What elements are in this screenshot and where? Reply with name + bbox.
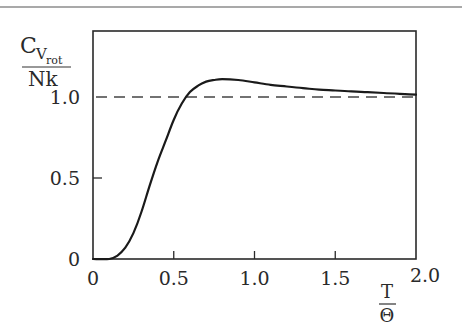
plot-border xyxy=(93,31,416,259)
x-tick-label: 0.5 xyxy=(159,267,189,289)
plot-frame xyxy=(93,31,416,259)
y-label-denominator: Nk xyxy=(28,67,59,91)
heat-capacity-chart: 00.51.01.52.000.51.0 C V rot Nk T Θ xyxy=(0,0,462,332)
y-axis-label: C V rot Nk xyxy=(20,33,71,91)
axis-ticks xyxy=(93,178,335,259)
x-tick-label: 1.0 xyxy=(239,267,269,289)
x-tick-label: 1.5 xyxy=(320,267,350,289)
x-tick-label: 2.0 xyxy=(410,264,440,286)
x-tick-label: 0 xyxy=(87,267,99,289)
x-axis-label: T Θ xyxy=(379,281,396,326)
y-tick-label: 0.5 xyxy=(50,167,80,189)
y-label-numerator: C xyxy=(20,33,37,58)
y-tick-label: 0 xyxy=(68,248,80,270)
data-curve xyxy=(93,79,416,259)
x-label-numerator: T xyxy=(381,281,393,302)
y-label-sub2: rot xyxy=(46,54,63,67)
x-label-denominator: Θ xyxy=(380,305,395,326)
